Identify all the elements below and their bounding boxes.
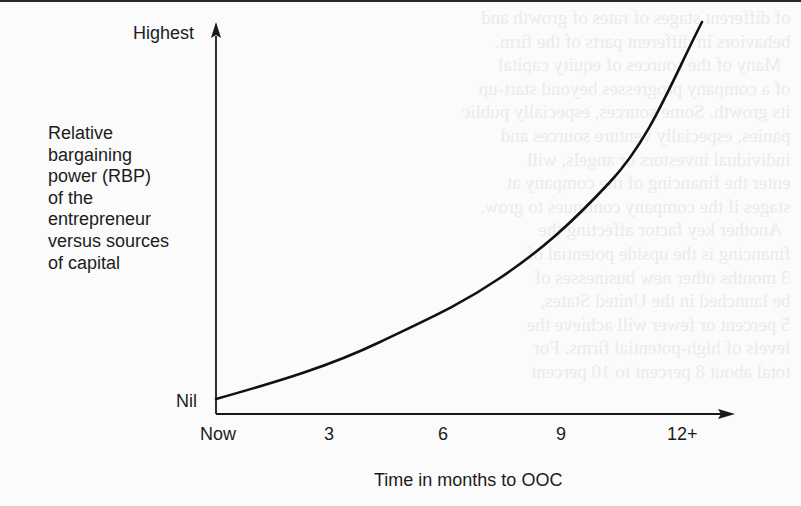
y-axis-title: Relative bargaining power (RBP) of the e…: [48, 123, 169, 274]
y-axis-title-line: versus sources: [48, 231, 169, 251]
y-axis-title-line: of the: [48, 188, 93, 208]
y-axis-title-line: bargaining: [48, 145, 132, 165]
rbp-curve: [216, 22, 702, 399]
y-axis-arrow-icon: [211, 22, 221, 38]
y-axis-title-line: entrepreneur: [48, 209, 151, 229]
y-axis-top-label: Highest: [133, 24, 194, 42]
y-axis-title-line: Relative: [48, 123, 113, 143]
x-tick-9: 9: [556, 425, 566, 443]
x-tick-3: 3: [324, 425, 334, 443]
x-axis-title: Time in months to OOC: [374, 471, 562, 489]
x-tick-now: Now: [200, 425, 236, 443]
y-axis-title-line: of capital: [48, 253, 120, 273]
x-tick-6: 6: [438, 425, 448, 443]
y-axis-title-line: power (RBP): [48, 166, 151, 186]
y-axis-bottom-label: Nil: [176, 392, 197, 410]
x-tick-12-plus: 12+: [667, 425, 698, 443]
